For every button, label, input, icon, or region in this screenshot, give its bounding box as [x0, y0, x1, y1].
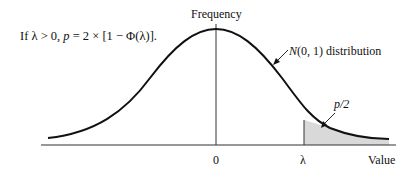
- tick-lambda-label: λ: [300, 154, 306, 166]
- tail-label: p/2: [334, 98, 349, 110]
- normal-distribution-diagram: [0, 0, 416, 174]
- curve-label-n: N: [289, 44, 297, 58]
- tick-zero-label: 0: [213, 154, 219, 166]
- tail-pointer-arrow: [324, 113, 335, 124]
- value-axis-label: Value: [368, 154, 395, 166]
- formula-rest: = 2 × [1 − Φ(λ)].: [70, 29, 157, 43]
- curve-label-rest: (0, 1) distribution: [297, 44, 381, 58]
- curve-label: N(0, 1) distribution: [289, 45, 381, 57]
- formula-prefix: If λ > 0,: [20, 29, 63, 43]
- formula-text: If λ > 0, p = 2 × [1 − Φ(λ)].: [20, 30, 157, 43]
- frequency-label: Frequency: [191, 8, 242, 20]
